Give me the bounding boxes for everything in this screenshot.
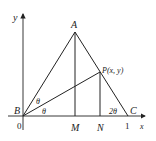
- origin-label: 0: [17, 121, 22, 131]
- segment-bp: [23, 72, 100, 116]
- angle-theta-upper: θ: [36, 97, 40, 106]
- angle-theta-lower: θ: [42, 107, 46, 116]
- x-tick-1-label: 1: [125, 121, 130, 131]
- point-b-label: B: [14, 105, 20, 116]
- segment-ab: [23, 32, 75, 116]
- point-m-label: M: [70, 122, 80, 133]
- point-a-label: A: [70, 19, 78, 30]
- x-axis-label: x: [139, 122, 144, 131]
- point-n-label: N: [96, 122, 105, 133]
- point-c-label: C: [130, 105, 137, 116]
- geometry-diagram: y A P(x, y) B 0 θ θ 2θ C M N 1 x: [0, 0, 156, 141]
- angle-2theta-label: 2θ: [109, 107, 117, 116]
- point-p-label: P(x, y): [101, 66, 124, 75]
- y-axis-label: y: [12, 12, 18, 23]
